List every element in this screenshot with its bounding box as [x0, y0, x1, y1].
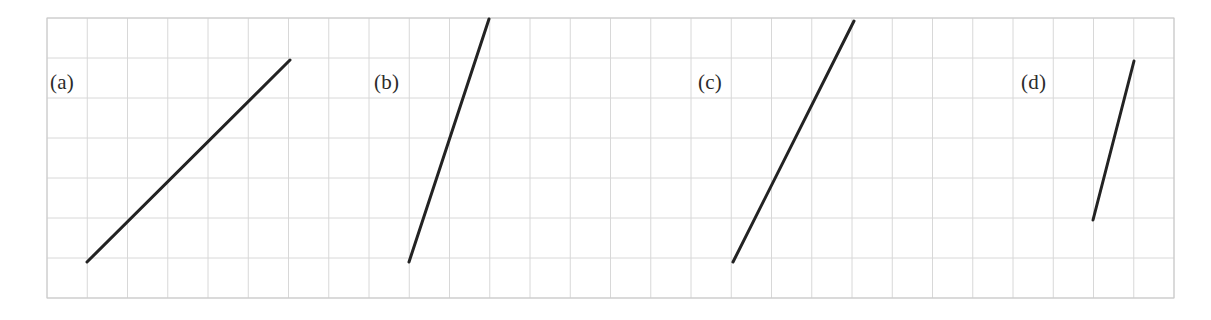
panel-label-d: (d)	[1021, 72, 1046, 93]
panel-label-a: (a)	[50, 72, 74, 93]
line-segment-d	[1093, 61, 1134, 220]
grid-and-lines-plot	[0, 0, 1211, 320]
grid-lines	[47, 18, 1174, 298]
figure-canvas: (a) (b) (c) (d)	[0, 0, 1211, 320]
line-segment-c	[733, 21, 854, 262]
line-segment-a	[87, 60, 290, 262]
panel-label-b: (b)	[374, 72, 399, 93]
panel-label-c: (c)	[698, 72, 722, 93]
